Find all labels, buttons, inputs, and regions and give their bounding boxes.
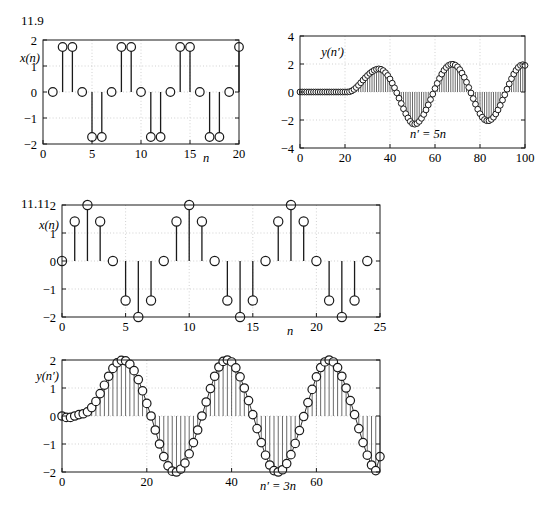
- svg-text:1: 1: [50, 382, 56, 396]
- figure-11-9-xn: 05101520−2−1012x(n)n: [0, 28, 271, 178]
- svg-text:20: 20: [339, 151, 352, 165]
- svg-text:20: 20: [233, 147, 246, 161]
- problem-label-11-9: 11.9: [21, 13, 44, 29]
- svg-text:2: 2: [31, 34, 37, 48]
- svg-text:−1: −1: [24, 112, 37, 126]
- figure-11-11-xn: 0510152025−2−1012x(n)n: [0, 193, 410, 348]
- svg-text:20: 20: [141, 475, 154, 489]
- svg-text:25: 25: [374, 320, 387, 334]
- svg-text:0: 0: [31, 86, 37, 100]
- svg-text:20: 20: [310, 320, 323, 334]
- svg-text:60: 60: [429, 151, 442, 165]
- svg-text:40: 40: [384, 151, 397, 165]
- svg-text:n′ = 5n: n′ = 5n: [410, 127, 446, 141]
- svg-text:5: 5: [122, 320, 128, 334]
- figure-11-11-yn: 0204060−2−1012y(n′)n′ = 3n: [0, 348, 410, 508]
- svg-text:−1: −1: [43, 283, 56, 297]
- svg-text:y(n′): y(n′): [319, 45, 344, 59]
- svg-text:10: 10: [135, 147, 148, 161]
- svg-text:−2: −2: [281, 114, 294, 128]
- svg-text:−2: −2: [43, 466, 56, 480]
- svg-text:80: 80: [474, 151, 487, 165]
- svg-text:0: 0: [297, 151, 303, 165]
- svg-text:−2: −2: [43, 311, 56, 325]
- svg-text:0: 0: [59, 320, 65, 334]
- svg-text:n: n: [203, 151, 209, 165]
- svg-text:y(n′): y(n′): [34, 369, 59, 383]
- svg-text:4: 4: [288, 30, 295, 44]
- svg-text:40: 40: [225, 475, 238, 489]
- svg-text:2: 2: [50, 354, 56, 368]
- svg-text:−2: −2: [24, 138, 37, 152]
- svg-text:x(n): x(n): [19, 51, 40, 65]
- svg-text:n: n: [287, 324, 293, 338]
- svg-text:0: 0: [288, 86, 294, 100]
- svg-text:x(n): x(n): [38, 218, 59, 232]
- svg-text:2: 2: [288, 58, 294, 72]
- svg-text:15: 15: [184, 147, 197, 161]
- svg-text:−4: −4: [281, 142, 295, 156]
- svg-text:60: 60: [310, 475, 323, 489]
- svg-text:5: 5: [89, 147, 95, 161]
- svg-text:0: 0: [50, 410, 56, 424]
- svg-text:0: 0: [50, 255, 56, 269]
- svg-text:−1: −1: [43, 438, 56, 452]
- svg-text:0: 0: [40, 147, 46, 161]
- svg-text:100: 100: [516, 151, 535, 165]
- svg-text:2: 2: [50, 199, 56, 213]
- svg-text:10: 10: [183, 320, 196, 334]
- figure-11-9-yn: 020406080100−4−2024y(n′)n′ = 5n: [268, 22, 543, 182]
- svg-text:15: 15: [247, 320, 260, 334]
- svg-text:n′ = 3n: n′ = 3n: [260, 479, 296, 493]
- svg-text:0: 0: [59, 475, 65, 489]
